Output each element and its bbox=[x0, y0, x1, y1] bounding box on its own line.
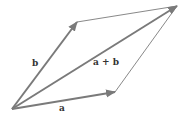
vector-b-arrow bbox=[12, 22, 77, 109]
label-sum: a + b bbox=[93, 57, 119, 67]
label-a: a bbox=[59, 103, 65, 113]
edge-b-to-sum bbox=[77, 6, 177, 22]
edge-a-to-sum bbox=[115, 6, 177, 92]
vector-diagram: b a + b a bbox=[0, 0, 183, 120]
label-b: b bbox=[32, 58, 38, 68]
